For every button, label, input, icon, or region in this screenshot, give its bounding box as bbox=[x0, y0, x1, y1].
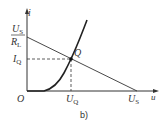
figure-caption: b) bbox=[80, 110, 88, 120]
y-axis-label: i bbox=[28, 8, 31, 18]
us-sub: S bbox=[135, 98, 139, 106]
q-point-dot bbox=[69, 57, 73, 61]
x-axis-label: u bbox=[151, 93, 156, 102]
us-over-rl-numerator: US bbox=[12, 24, 23, 36]
uq-sub: Q bbox=[73, 98, 78, 106]
iq-label: IQ bbox=[13, 54, 21, 66]
rl-sub: L bbox=[17, 41, 21, 49]
us-num-sub: S bbox=[19, 28, 23, 36]
load-line bbox=[27, 37, 137, 91]
q-point-label: Q bbox=[74, 48, 81, 58]
origin-label: O bbox=[17, 94, 24, 104]
us-over-rl-denominator: RL bbox=[11, 37, 21, 49]
uq-label: UQ bbox=[66, 94, 78, 106]
iq-sub: Q bbox=[16, 58, 21, 66]
us-label: US bbox=[128, 94, 139, 106]
